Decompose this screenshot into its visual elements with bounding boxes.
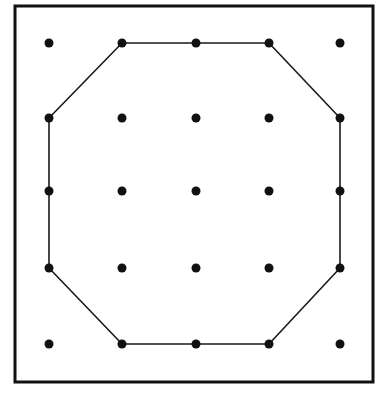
peg-dot <box>118 264 127 273</box>
peg-dot <box>118 340 127 349</box>
peg-dot <box>192 39 201 48</box>
peg-dot <box>265 264 274 273</box>
peg-dot <box>265 187 274 196</box>
peg-dot <box>45 340 54 349</box>
geoboard-diagram <box>0 0 377 401</box>
peg-dot <box>118 187 127 196</box>
peg-dot <box>265 340 274 349</box>
peg-dot <box>45 39 54 48</box>
peg-dot <box>45 114 54 123</box>
peg-dot <box>265 39 274 48</box>
peg-dot <box>192 340 201 349</box>
peg-dot <box>336 264 345 273</box>
peg-dot <box>118 114 127 123</box>
peg-grid <box>45 39 345 349</box>
peg-dot <box>192 114 201 123</box>
peg-dot <box>45 264 54 273</box>
peg-dot <box>45 187 54 196</box>
peg-dot <box>192 264 201 273</box>
peg-dot <box>118 39 127 48</box>
peg-dot <box>336 114 345 123</box>
peg-dot <box>265 114 274 123</box>
peg-dot <box>336 340 345 349</box>
peg-dot <box>336 187 345 196</box>
peg-dot <box>192 187 201 196</box>
peg-dot <box>336 39 345 48</box>
